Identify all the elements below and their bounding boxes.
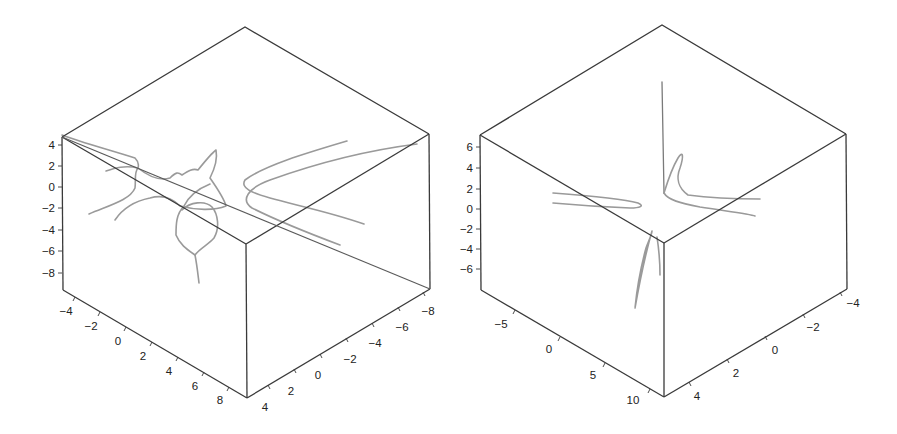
left-z-tick-label: 0: [49, 181, 55, 193]
left-z-tick-label: 2: [49, 160, 55, 172]
left-y-tick-label: 2: [288, 385, 294, 397]
left-x-tick-label: 6: [192, 380, 198, 392]
right-plot-curves: [553, 82, 760, 308]
right-z-tick-label: −4: [460, 243, 474, 255]
right-z-tick-label: 6: [467, 141, 473, 153]
right-y-tick-label: 4: [694, 390, 701, 402]
right-z-tick-label: −2: [460, 223, 473, 235]
right-y-tick-label: −4: [846, 297, 860, 309]
left-x-tick-label: −2: [84, 320, 97, 332]
right-x-tick-label: 5: [590, 369, 596, 381]
left-plot-y-axis: 4 2 0 −2 −4 −6 −8: [262, 292, 435, 413]
left-y-tick-label: −2: [343, 353, 356, 365]
left-plot-x-axis: −4 −2 0 2 4 6 8: [59, 297, 229, 406]
right-z-tick-label: 4: [467, 162, 474, 174]
left-plot-z-axis: 4 2 0 −2 −4 −6 −8: [42, 139, 62, 279]
right-y-tick-label: 2: [733, 367, 739, 379]
left-x-tick-label: −4: [59, 305, 73, 317]
right-x-tick-label: −5: [494, 318, 507, 330]
left-z-tick-label: −8: [42, 267, 55, 279]
left-y-tick-label: −8: [421, 305, 434, 317]
left-y-tick-label: −4: [368, 337, 382, 349]
right-z-tick-label: 0: [467, 203, 473, 215]
left-z-tick-label: −6: [42, 245, 55, 257]
right-plot-box: [480, 25, 847, 397]
right-z-tick-label: 2: [467, 183, 473, 195]
left-x-tick-label: 8: [217, 394, 223, 406]
right-y-tick-label: −2: [806, 321, 819, 333]
left-z-tick-label: −2: [42, 202, 55, 214]
figure: 4 2 0 −2 −4 −6 −8 −4 −2 0 2 4 6 8: [0, 0, 897, 434]
right-x-tick-label: 10: [627, 394, 640, 406]
right-plot-y-axis: 4 2 0 −2 −4: [689, 292, 860, 402]
left-plot-curves: [62, 135, 417, 283]
left-x-tick-label: 0: [115, 335, 121, 347]
left-x-tick-label: 2: [140, 350, 146, 362]
right-x-tick-label: 0: [546, 343, 552, 355]
left-y-tick-label: −6: [395, 321, 408, 333]
right-y-tick-label: 0: [772, 344, 778, 356]
left-3d-plot: 4 2 0 −2 −4 −6 −8 −4 −2 0 2 4 6 8: [42, 27, 435, 413]
left-y-tick-label: 0: [315, 369, 321, 381]
right-plot-z-axis: 6 4 2 0 −2 −4 −6: [460, 141, 480, 275]
right-3d-plot: 6 4 2 0 −2 −4 −6 −5 0 5 10 4 2: [460, 25, 860, 406]
right-plot-x-axis: −5 0 5 10: [494, 310, 650, 406]
left-y-tick-label: 4: [262, 401, 269, 413]
right-z-tick-label: −6: [460, 263, 473, 275]
left-x-tick-label: 4: [166, 365, 173, 377]
left-z-tick-label: −4: [42, 224, 56, 236]
left-z-tick-label: 4: [49, 139, 56, 151]
